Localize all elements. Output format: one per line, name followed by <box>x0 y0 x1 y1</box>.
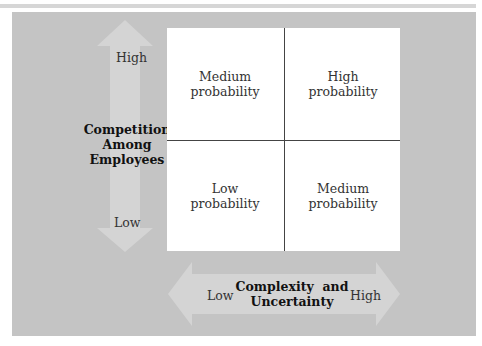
x-axis-title: Complexity and Uncertainty <box>232 279 352 309</box>
y-axis-title-line: Among <box>82 137 172 152</box>
y-axis-title-line: Competition <box>82 122 172 137</box>
x-axis-title-line: Uncertainty <box>232 294 352 309</box>
x-axis-low-label: Low <box>207 288 234 303</box>
cell-text: probability <box>308 84 377 99</box>
cell-top-right: Highprobability <box>285 28 401 140</box>
x-axis-high-label: High <box>350 288 381 303</box>
cell-text: probability <box>190 196 259 211</box>
y-axis-low-label: Low <box>114 215 141 230</box>
y-axis-title-line: Employees <box>82 152 172 167</box>
y-axis-title: Competition Among Employees <box>82 122 172 167</box>
probability-matrix: Mediumprobability Highprobability Lowpro… <box>167 28 400 251</box>
x-axis-title-line: Complexity and <box>232 279 352 294</box>
cell-text: Low <box>190 181 259 196</box>
top-rule <box>0 4 476 8</box>
cell-top-left: Mediumprobability <box>167 28 283 140</box>
cell-bottom-left: Lowprobability <box>167 141 283 251</box>
y-axis-high-label: High <box>116 50 147 65</box>
cell-bottom-right: Mediumprobability <box>285 141 401 251</box>
cell-text: probability <box>190 84 259 99</box>
cell-text: Medium <box>190 69 259 84</box>
cell-text: High <box>308 69 377 84</box>
cell-text: probability <box>308 196 377 211</box>
cell-text: Medium <box>308 181 377 196</box>
